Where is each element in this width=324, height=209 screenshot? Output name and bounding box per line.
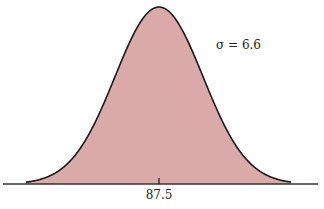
normal-distribution-chart: 87.5 σ = 6.6	[0, 0, 324, 209]
mean-tick-label: 87.5	[146, 188, 173, 202]
curve-area	[26, 7, 291, 184]
sigma-annotation: σ = 6.6	[216, 38, 261, 52]
